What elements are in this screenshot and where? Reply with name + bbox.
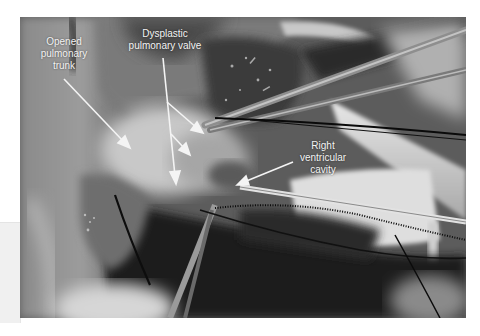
label-line: trunk — [40, 60, 88, 72]
label-line: Opened — [40, 36, 88, 48]
surgical-photo: Opened pulmonary trunk Dysplastic pulmon… — [20, 17, 466, 318]
label-line: pulmonary valve — [124, 40, 206, 52]
label-line: pulmonary — [40, 48, 88, 60]
label-line: Dysplastic — [124, 28, 206, 40]
page-margin-band — [0, 222, 21, 323]
label-line: cavity — [293, 164, 353, 176]
label-right-ventricular-cavity: Right ventricular cavity — [293, 140, 353, 176]
label-dysplastic-pulmonary-valve: Dysplastic pulmonary valve — [124, 28, 206, 52]
label-opened-pulmonary-trunk: Opened pulmonary trunk — [40, 36, 88, 72]
label-line: ventricular — [293, 152, 353, 164]
label-line: Right — [293, 140, 353, 152]
